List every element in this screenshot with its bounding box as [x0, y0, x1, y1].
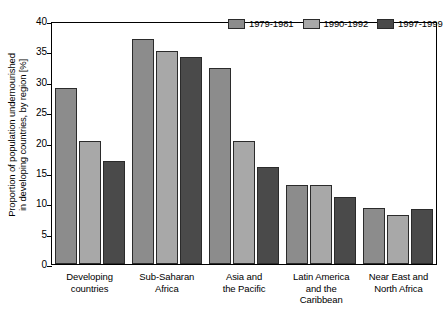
bar — [363, 208, 385, 264]
bar — [310, 185, 332, 264]
legend-swatch — [228, 19, 245, 29]
bar — [233, 141, 255, 264]
bar-group — [282, 23, 359, 264]
bar — [156, 51, 178, 264]
y-axis-tick-mark — [47, 175, 52, 176]
y-axis-tick-mark — [47, 205, 52, 206]
bar-groups — [52, 23, 436, 264]
x-axis-category-label-line: Sub-Saharan — [139, 271, 194, 282]
bar — [209, 68, 231, 264]
x-axis-category-label: Latin Americaand theCaribbean — [283, 268, 360, 309]
legend: 1979-19811990-19921997-1999 — [228, 19, 443, 29]
x-axis-category-label-line: and the — [306, 283, 337, 294]
bar — [180, 57, 202, 264]
bar — [79, 141, 101, 264]
legend-item[interactable]: 1979-1981 — [228, 19, 294, 29]
y-axis-tick-label: 35 — [25, 47, 47, 57]
x-axis-category-label-line: Near East and — [369, 271, 428, 282]
bar — [132, 39, 154, 264]
x-axis-category-label-line: Caribbean — [300, 294, 343, 305]
bar — [387, 215, 409, 264]
y-axis-tick-mark — [47, 266, 52, 267]
bar — [286, 185, 308, 264]
x-axis-category-label-line: North Africa — [374, 283, 422, 294]
x-axis-category-label-line: countries — [71, 283, 109, 294]
y-axis-tick-label: 25 — [25, 108, 47, 118]
y-axis-tick-labels: 4035302520151050 — [22, 0, 47, 269]
x-axis-category-label-line: Latin America — [293, 271, 349, 282]
y-axis-tick-mark — [47, 23, 52, 24]
x-axis-category-label: Sub-SaharanAfrica — [128, 268, 205, 309]
bar — [103, 161, 125, 264]
bar-group — [206, 23, 283, 264]
y-axis-tick-label: 20 — [25, 139, 47, 149]
legend-swatch — [377, 19, 394, 29]
y-axis-tick-label: 5 — [25, 230, 47, 240]
bar-group — [359, 23, 436, 264]
x-axis-category-label-line: Developing — [66, 271, 113, 282]
chart-figure: Proportion of population undernourished … — [0, 0, 448, 309]
x-axis-category-label: Near East andNorth Africa — [360, 268, 437, 309]
y-axis-tick-label: 30 — [25, 78, 47, 88]
bar-group — [52, 23, 129, 264]
bar — [334, 197, 356, 264]
legend-item[interactable]: 1997-1999 — [377, 19, 443, 29]
y-axis-tick-mark — [47, 236, 52, 237]
y-axis-tick-mark — [47, 114, 52, 115]
x-axis-category-label: Asia andthe Pacific — [205, 268, 282, 309]
legend-label: 1979-1981 — [249, 19, 294, 29]
y-axis-tick-label: 0 — [25, 260, 47, 270]
y-axis-title-line-1: Proportion of population undernourished — [6, 53, 17, 217]
y-axis-tick-mark — [47, 53, 52, 54]
bar — [257, 167, 279, 264]
bar — [411, 209, 433, 264]
legend-item[interactable]: 1990-1992 — [303, 19, 369, 29]
legend-label: 1990-1992 — [324, 19, 369, 29]
y-axis-tick-label: 15 — [25, 169, 47, 179]
y-axis-tick-mark — [47, 145, 52, 146]
y-axis-tick-label: 10 — [25, 199, 47, 209]
x-axis-category-label-line: Africa — [155, 283, 179, 294]
plot-area — [51, 22, 437, 265]
x-axis-category-label-line: the Pacific — [223, 283, 266, 294]
legend-swatch — [303, 19, 320, 29]
x-axis-category-label: Developingcountries — [51, 268, 128, 309]
x-axis-category-label-line: Asia and — [226, 271, 262, 282]
legend-label: 1997-1999 — [398, 19, 443, 29]
bar-group — [129, 23, 206, 264]
x-axis-category-labels: DevelopingcountriesSub-SaharanAfricaAsia… — [51, 268, 437, 309]
bar — [55, 88, 77, 264]
y-axis-tick-mark — [47, 84, 52, 85]
y-axis-tick-label: 40 — [25, 17, 47, 27]
